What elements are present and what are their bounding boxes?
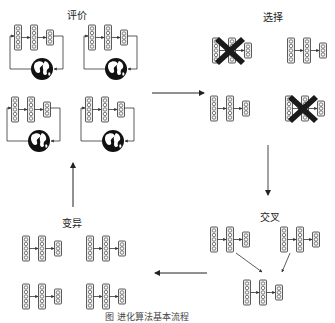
evaluate-individual-1 bbox=[10, 25, 63, 80]
select-individual-2 bbox=[288, 38, 327, 63]
select-individual-3 bbox=[211, 96, 250, 121]
select-individual-1-rejected bbox=[213, 37, 252, 65]
mutate-individual-4 bbox=[87, 284, 126, 309]
crossover-parent-2 bbox=[281, 227, 320, 252]
evaluate-individual-2 bbox=[84, 25, 137, 80]
select-individual-4-rejected bbox=[286, 95, 325, 123]
mutate-individual-3 bbox=[23, 284, 62, 309]
crossover-offspring bbox=[244, 280, 283, 305]
crossover-parent-1 bbox=[211, 227, 250, 252]
mutate-individual-1 bbox=[23, 236, 62, 261]
mutate-individual-2 bbox=[87, 236, 126, 261]
crossover-arrow-left bbox=[236, 253, 262, 272]
evaluate-individual-4 bbox=[81, 97, 134, 152]
crossover-arrow-right bbox=[282, 253, 290, 272]
evaluate-individual-3 bbox=[7, 97, 60, 152]
